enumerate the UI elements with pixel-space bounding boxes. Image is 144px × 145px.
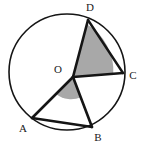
point-label-D: D	[86, 1, 94, 13]
geometry-canvas: O D C B A	[0, 0, 144, 145]
point-label-A: A	[19, 122, 27, 134]
point-label-O: O	[54, 63, 62, 75]
circle-geometry-figure: O D C B A	[0, 0, 144, 145]
point-label-C: C	[129, 69, 136, 81]
point-label-B: B	[94, 131, 101, 143]
